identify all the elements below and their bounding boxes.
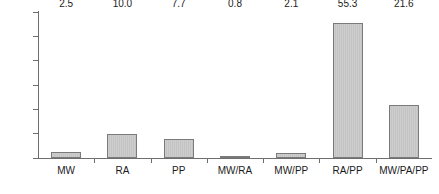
bar-group: 55.3 — [333, 12, 363, 158]
y-axis-tick-label-wrap: 20 — [0, 109, 38, 110]
x-axis-category-label: RA/PP — [333, 165, 363, 176]
bar-value-label: 55.3 — [338, 0, 357, 9]
bar-group: 10.0 — [107, 12, 137, 158]
x-axis-line — [38, 158, 432, 159]
bar[interactable]: 7.7 — [164, 139, 194, 158]
x-axis-category-label: MW/PP — [274, 165, 308, 176]
bar[interactable]: 0.8 — [220, 156, 250, 158]
bar-value-label: 0.8 — [228, 0, 242, 9]
bar-group: 21.6 — [389, 12, 419, 158]
y-axis-tick-label-wrap: 60 — [0, 12, 38, 13]
x-axis-category-label: MW — [57, 165, 75, 176]
bar[interactable]: 2.5 — [51, 152, 81, 158]
bar-group: 2.1 — [276, 12, 306, 158]
y-axis-tick-label-wrap: 40 — [0, 60, 38, 61]
bar[interactable]: 10.0 — [107, 134, 137, 158]
y-axis-tick-label-wrap: 50 — [0, 36, 38, 37]
x-axis-tick — [151, 159, 152, 163]
bar-value-label: 2.1 — [284, 0, 298, 9]
x-axis-tick — [207, 159, 208, 163]
x-axis-category-label: PP — [172, 165, 185, 176]
bar-value-label: 10.0 — [113, 0, 132, 9]
x-axis-tick — [376, 159, 377, 163]
x-axis-tick — [263, 159, 264, 163]
bar[interactable]: 2.1 — [276, 153, 306, 158]
bar[interactable]: 21.6 — [389, 105, 419, 158]
x-axis-category-label: MW/PA/PP — [379, 165, 428, 176]
bar-group: 2.5 — [51, 12, 81, 158]
bar-value-label: 21.6 — [394, 0, 413, 9]
x-axis-category-label: MW/RA — [218, 165, 252, 176]
bar-value-label: 2.5 — [59, 0, 73, 9]
x-axis-category-label: RA — [115, 165, 129, 176]
y-axis-tick-label-wrap: 30 — [0, 85, 38, 86]
x-axis-tick — [94, 159, 95, 163]
plot-area: 2.510.07.70.82.155.321.6 — [38, 12, 432, 158]
y-axis-tick-label-wrap: 0 — [0, 158, 38, 159]
bar-group: 7.7 — [164, 12, 194, 158]
bar-value-label: 7.7 — [172, 0, 186, 9]
bar[interactable]: 55.3 — [333, 23, 363, 158]
bar-group: 0.8 — [220, 12, 250, 158]
x-axis-tick — [319, 159, 320, 163]
y-axis-tick-label-wrap: 10 — [0, 133, 38, 134]
bar-chart: 0102030405060 2.510.07.70.82.155.321.6 M… — [0, 0, 439, 194]
